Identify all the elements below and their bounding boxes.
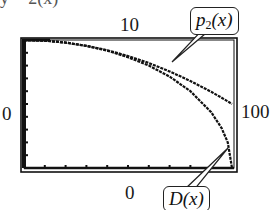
xmin-label: 0 xyxy=(125,183,135,202)
d-curve xyxy=(24,40,232,168)
d-name: D xyxy=(169,188,183,209)
ymin-label: 0 xyxy=(2,104,12,123)
p2-curve xyxy=(24,40,232,104)
d-arg: (x) xyxy=(183,188,204,209)
p2-arg: (x) xyxy=(212,9,233,30)
ymax-label: 10 xyxy=(120,15,139,34)
p2-callout: p2(x) xyxy=(190,7,239,35)
xmax-label: 100 xyxy=(241,102,270,121)
d-callout: D(x) xyxy=(163,186,210,210)
axis-ticks xyxy=(24,53,211,168)
p2-name: p xyxy=(196,9,206,30)
